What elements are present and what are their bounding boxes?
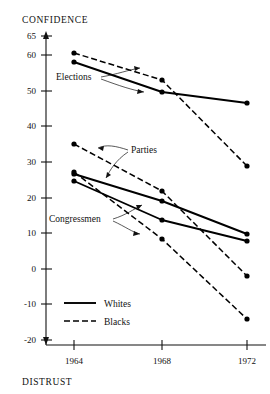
y-tick-label-20: 20 bbox=[27, 193, 37, 203]
y-axis-tick-labels: 65 60 50 40 30 20 10 0 -10 -20 bbox=[24, 31, 37, 345]
data-point bbox=[159, 77, 164, 82]
data-point bbox=[159, 188, 164, 193]
y-tick-label-0: 0 bbox=[32, 264, 37, 274]
series-congressmen-whites bbox=[71, 178, 249, 243]
series-elections-whites bbox=[71, 59, 249, 105]
line-chart: CONFIDENCE 65 60 50 40 30 20 10 0 -10 -2… bbox=[0, 0, 270, 394]
annotation-leader-parties bbox=[98, 146, 128, 178]
y-axis-title-confidence: CONFIDENCE bbox=[22, 15, 88, 25]
y-tick-label-30: 30 bbox=[27, 157, 37, 167]
series-parties-whites bbox=[71, 171, 249, 236]
y-axis-arrow-icon bbox=[43, 31, 49, 39]
legend-label-whites: Whites bbox=[104, 299, 131, 309]
x-tick-label-1968: 1968 bbox=[153, 356, 172, 366]
y-tick-label-60: 60 bbox=[27, 50, 37, 60]
annotation-leader-elections bbox=[101, 66, 144, 94]
chart-legend: Whites Blacks bbox=[64, 299, 131, 327]
data-point bbox=[244, 100, 249, 105]
legend-label-blacks: Blacks bbox=[104, 317, 130, 327]
data-point bbox=[244, 238, 249, 243]
y-axis-title-distrust: DISTRUST bbox=[22, 377, 72, 387]
data-point bbox=[71, 59, 76, 64]
data-point bbox=[244, 163, 249, 168]
annotation-label-parties: Parties bbox=[131, 145, 157, 155]
data-point bbox=[159, 217, 164, 222]
y-tick-label-65: 65 bbox=[27, 31, 37, 41]
y-axis-bottom-arrow-icon bbox=[43, 337, 49, 345]
y-tick-label-40: 40 bbox=[27, 121, 37, 131]
data-point bbox=[71, 141, 76, 146]
y-tick-label-neg10: -10 bbox=[24, 299, 36, 309]
data-point bbox=[244, 231, 249, 236]
x-axis-tick-labels: 1964 1968 1972 bbox=[65, 356, 256, 366]
y-tick-label-neg20: -20 bbox=[24, 335, 36, 345]
data-point bbox=[244, 316, 249, 321]
series-parties-blacks bbox=[71, 141, 249, 278]
annotation-label-elections: Elections bbox=[56, 72, 92, 82]
data-point bbox=[71, 169, 76, 174]
series-elections-blacks bbox=[71, 50, 249, 168]
data-point bbox=[159, 236, 164, 241]
annotation-label-congressmen: Congressmen bbox=[49, 214, 101, 224]
data-point bbox=[71, 50, 76, 55]
x-tick-label-1972: 1972 bbox=[238, 356, 256, 366]
x-tick-label-1964: 1964 bbox=[65, 356, 84, 366]
data-point bbox=[159, 198, 164, 203]
y-tick-label-10: 10 bbox=[27, 228, 37, 238]
data-point bbox=[71, 178, 76, 183]
data-point bbox=[159, 89, 164, 94]
data-point bbox=[244, 273, 249, 278]
chart-container: CONFIDENCE 65 60 50 40 30 20 10 0 -10 -2… bbox=[0, 0, 270, 394]
y-tick-label-50: 50 bbox=[27, 86, 37, 96]
